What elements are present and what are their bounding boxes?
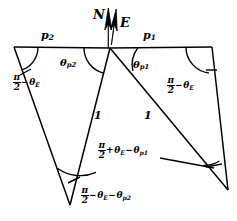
frac-pi-over-2: π 2 bbox=[81, 186, 89, 206]
left-triangle-outer-edge bbox=[14, 47, 70, 205]
edge-label-p1: p1 bbox=[143, 30, 156, 42]
right-triangle-outer-edge bbox=[212, 47, 228, 190]
angle-label-theta-p2: θp2 bbox=[60, 58, 76, 69]
angle-label-bottom-left: π 2 −θE−θp2 bbox=[81, 186, 131, 206]
frac-pi-over-2: π 2 bbox=[13, 73, 21, 93]
frac-pi-over-2: π 2 bbox=[98, 141, 106, 161]
angle-arc-bottom-left bbox=[58, 169, 96, 176]
leader-tick-bottom-left bbox=[68, 177, 80, 183]
east-label: E bbox=[120, 16, 130, 29]
angle-arc-top-right bbox=[186, 47, 209, 73]
north-label: N bbox=[93, 8, 105, 21]
left-triangle-unit-edge bbox=[70, 48, 110, 205]
baseline-right-segment bbox=[110, 47, 212, 48]
angle-label-bottom-right: π 2 +θE−θp1 bbox=[98, 141, 148, 161]
angle-label-theta-p1: θp1 bbox=[133, 60, 149, 71]
angle-label-top-left: π 2 −θE bbox=[13, 73, 40, 93]
edge-label-p2: p2 bbox=[41, 30, 54, 42]
angle-arc-theta-p2 bbox=[84, 48, 103, 73]
unit-label-right: 1 bbox=[144, 110, 152, 121]
frac-pi-over-2: π 2 bbox=[167, 76, 175, 96]
unit-label-left: 1 bbox=[94, 110, 102, 121]
figure-root: N E p2 p1 1 1 θp2 θp1 π 2 −θE π 2 −θE π … bbox=[0, 0, 237, 221]
east-arrow bbox=[111, 9, 118, 45]
baseline-left-segment bbox=[14, 47, 110, 48]
angle-label-top-right: π 2 −θE bbox=[167, 76, 194, 96]
angle-arc-top-left bbox=[23, 47, 39, 70]
